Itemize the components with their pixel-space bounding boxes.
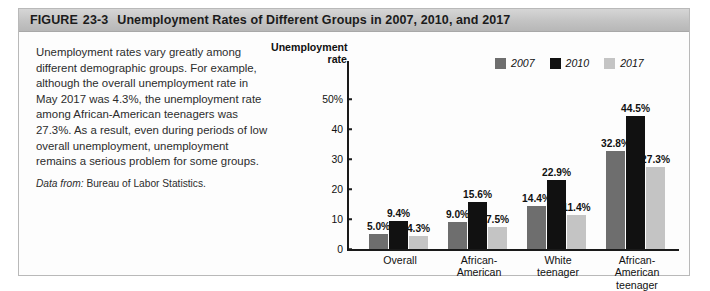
y-axis-tick-label: 50% <box>299 94 343 105</box>
bar-group-1: 5.0%9.4%4.3%Overall <box>369 61 431 249</box>
caption-source-text: Bureau of Labor Statistics. <box>86 178 205 189</box>
bar-2017-overall[interactable]: 4.3% <box>409 236 428 249</box>
figure-container: FIGURE23-3Unemployment Rates of Differen… <box>18 8 690 276</box>
y-axis-tick-mark <box>347 98 352 100</box>
x-axis-line <box>347 249 679 251</box>
figure-header-bar: FIGURE23-3Unemployment Rates of Differen… <box>19 9 689 32</box>
caption-body-text: Unemployment rates vary greatly among di… <box>36 45 268 170</box>
bar-2007-african-american-teenager[interactable]: 32.8% <box>606 151 625 249</box>
figure-header-text: FIGURE23-3Unemployment Rates of Differen… <box>19 13 510 27</box>
x-axis-category-label-line: Overall <box>383 254 417 266</box>
bar-2010-african-american[interactable]: 15.6% <box>468 202 487 249</box>
x-axis-category-label-line: teenager <box>615 279 660 291</box>
caption-source: Data from: Bureau of Labor Statistics. <box>36 177 268 190</box>
y-axis-tick-label: 30 <box>299 154 343 165</box>
bar-2007-overall[interactable]: 5.0% <box>369 234 388 249</box>
y-axis-tick-mark <box>347 248 352 250</box>
x-axis-category-label: African-Americanteenager <box>615 254 660 291</box>
figure-number: 23-3 <box>83 13 108 27</box>
bar-value-label: 22.9% <box>542 167 571 178</box>
plot-area: 01020304050% 200720102017 5.0%9.4%4.3%Ov… <box>347 61 679 249</box>
bar-2017-african-american[interactable]: 7.5% <box>488 227 507 250</box>
x-axis-category-label-line: White <box>537 254 579 266</box>
bar-2010-white-teenager[interactable]: 22.9% <box>547 180 566 249</box>
x-axis-category-label-line: African- <box>615 254 660 266</box>
x-axis-category-label-line: African- <box>457 254 502 266</box>
bar-2017-african-american-teenager[interactable]: 27.3% <box>646 167 665 249</box>
y-axis-tick-mark <box>347 158 352 160</box>
bar-value-label: 44.5% <box>621 103 650 114</box>
caption-block: Unemployment rates vary greatly among di… <box>36 45 268 190</box>
y-axis-tick-label: 10 <box>299 214 343 225</box>
bar-group-3: 14.4%22.9%11.4%Whiteteenager <box>527 61 589 249</box>
figure-word: FIGURE <box>30 13 78 27</box>
bar-group-4: 32.8%44.5%27.3%African-Americanteenager <box>606 61 668 249</box>
x-axis-category-label: Whiteteenager <box>537 254 579 279</box>
y-axis-title-line1: Unemployment <box>271 41 347 53</box>
bar-value-label: 9.0% <box>446 209 469 220</box>
y-axis-tick-label: 20 <box>299 184 343 195</box>
bar-group-2: 9.0%15.6%7.5%African-American <box>448 61 510 249</box>
bar-value-label: 4.3% <box>407 223 430 234</box>
bar-value-label: 5.0% <box>367 221 390 232</box>
bar-value-label: 27.3% <box>641 154 670 165</box>
bar-2010-overall[interactable]: 9.4% <box>389 221 408 249</box>
y-axis-tick-label: 0 <box>299 244 343 255</box>
y-axis-line <box>347 61 349 249</box>
y-axis-tick-mark <box>347 218 352 220</box>
y-axis-tick-mark <box>347 128 352 130</box>
y-axis-title: Unemployment rate <box>271 41 347 66</box>
bar-2007-white-teenager[interactable]: 14.4% <box>527 206 546 249</box>
bar-2007-african-american[interactable]: 9.0% <box>448 222 467 249</box>
bar-value-label: 9.4% <box>387 208 410 219</box>
x-axis-category-label-line: American <box>457 266 502 278</box>
y-axis-tick-label: 40 <box>299 124 343 135</box>
x-axis-category-label: African-American <box>457 254 502 279</box>
x-axis-category-label: Overall <box>383 254 417 266</box>
bar-chart: Unemployment rate 01020304050% 200720102… <box>271 41 681 269</box>
bar-value-label: 15.6% <box>463 189 492 200</box>
caption-source-lead: Data from: <box>36 178 84 189</box>
y-axis-tick-mark <box>347 188 352 190</box>
bar-2010-african-american-teenager[interactable]: 44.5% <box>626 116 645 250</box>
bar-2017-white-teenager[interactable]: 11.4% <box>567 215 586 249</box>
x-axis-category-label-line: teenager <box>537 266 579 278</box>
page-title: Unemployment Rates of Different Groups i… <box>117 13 510 27</box>
y-axis-title-line2: rate <box>271 53 347 65</box>
bar-value-label: 11.4% <box>562 202 590 213</box>
bar-value-label: 7.5% <box>486 214 509 225</box>
x-axis-category-label-line: American <box>615 266 660 278</box>
